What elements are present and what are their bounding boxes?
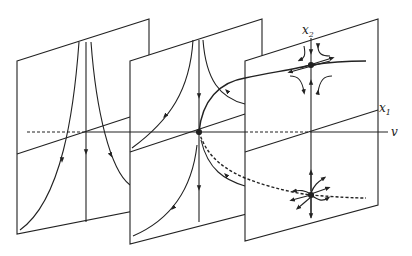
x1-axis-label: x1 — [379, 101, 391, 117]
v-axis-label: v — [391, 125, 398, 139]
panel-right — [245, 19, 378, 241]
panel-left-frame — [17, 19, 149, 234]
panel-left — [17, 19, 149, 234]
x2-axis-label: x2 — [302, 23, 314, 39]
bifurcation-diagram: x2 x1 v — [0, 0, 412, 256]
